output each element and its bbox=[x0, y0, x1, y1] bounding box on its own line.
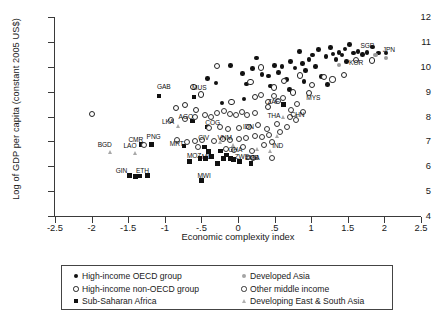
data-point bbox=[265, 104, 271, 110]
data-point bbox=[252, 133, 258, 139]
data-point bbox=[138, 174, 143, 179]
data-point bbox=[384, 56, 388, 60]
data-point bbox=[176, 124, 180, 128]
data-point bbox=[220, 101, 225, 106]
x-axis-label: Economic complexity index bbox=[55, 231, 421, 242]
point-label-civ: CIV bbox=[198, 134, 209, 141]
data-point bbox=[225, 126, 231, 132]
point-label-chn: CHN bbox=[291, 111, 305, 118]
plot-area: GABMUSAGOLKACOGIDNCMRPNGMRTCIVVNMGHABGDL… bbox=[55, 17, 421, 216]
point-label-zaf: ZAF bbox=[267, 98, 279, 105]
point-label-ind: IND bbox=[272, 142, 283, 149]
data-point bbox=[269, 155, 275, 161]
point-label-jpn: JPN bbox=[383, 46, 395, 53]
data-point bbox=[157, 94, 162, 99]
legend-item[interactable]: Other middle income bbox=[238, 283, 364, 296]
data-point bbox=[193, 107, 199, 113]
legend-item[interactable]: Developing East & South Asia bbox=[238, 295, 364, 308]
data-point bbox=[242, 97, 247, 102]
legend-marker-filled-square-icon bbox=[70, 299, 82, 303]
data-point bbox=[182, 102, 188, 108]
y-axis-label: Log of GDP per capita (constant 2005 US$… bbox=[11, 9, 21, 209]
data-point bbox=[294, 101, 300, 107]
data-point bbox=[228, 63, 233, 68]
data-point bbox=[255, 122, 261, 128]
data-point bbox=[215, 161, 220, 166]
point-label-lka: LKA bbox=[162, 118, 174, 125]
data-point bbox=[89, 111, 95, 117]
legend-marker-gray-triangle-icon bbox=[238, 299, 250, 303]
data-point bbox=[309, 82, 315, 88]
chart-legend: High-income OECD groupHigh-income non-OE… bbox=[61, 265, 393, 310]
data-point bbox=[264, 126, 270, 132]
point-label-cog: COG bbox=[205, 119, 220, 126]
data-point bbox=[321, 74, 327, 80]
data-point bbox=[297, 72, 303, 78]
data-point bbox=[307, 57, 312, 62]
data-point bbox=[187, 159, 192, 164]
data-point bbox=[255, 147, 259, 151]
data-point bbox=[328, 45, 333, 50]
legend-item[interactable]: High-income OECD group bbox=[70, 270, 199, 283]
data-point bbox=[310, 53, 315, 58]
data-point bbox=[173, 105, 179, 111]
data-point bbox=[297, 49, 302, 54]
y-tick bbox=[48, 42, 55, 43]
data-point bbox=[259, 134, 265, 140]
data-point bbox=[276, 70, 281, 75]
data-point bbox=[228, 99, 234, 105]
point-label-mwi: MWI bbox=[197, 172, 210, 179]
data-point bbox=[250, 66, 255, 71]
legend-item-label: High-income non-OECD group bbox=[82, 284, 199, 294]
point-label-mus: MUS bbox=[192, 84, 206, 91]
data-point bbox=[214, 63, 220, 69]
data-point bbox=[316, 47, 321, 52]
data-point bbox=[268, 149, 272, 153]
y-tick bbox=[48, 17, 55, 18]
point-label-mli: MLI bbox=[202, 153, 213, 160]
data-point bbox=[302, 79, 307, 84]
data-point bbox=[192, 95, 197, 100]
data-point bbox=[243, 135, 249, 141]
data-point bbox=[271, 84, 277, 90]
data-point bbox=[347, 42, 352, 47]
y-tick bbox=[48, 117, 55, 118]
y-tick bbox=[48, 166, 55, 167]
point-label-bgd: BGD bbox=[98, 141, 112, 148]
data-point bbox=[184, 139, 190, 145]
data-point bbox=[205, 76, 210, 81]
data-point bbox=[337, 63, 341, 67]
data-point bbox=[260, 72, 265, 77]
data-point bbox=[206, 125, 212, 131]
data-point bbox=[236, 136, 242, 142]
point-label-gab: GAB bbox=[157, 83, 171, 90]
y-tick bbox=[48, 191, 55, 192]
point-label-png: PNG bbox=[147, 133, 161, 140]
legend-item[interactable]: Developed Asia bbox=[238, 270, 364, 283]
legend-marker-filled-circle-icon bbox=[70, 274, 82, 278]
legend-item-label: Developing East & South Asia bbox=[250, 296, 364, 306]
data-point bbox=[293, 66, 298, 71]
data-point bbox=[303, 68, 308, 73]
data-point bbox=[236, 125, 242, 131]
data-point bbox=[244, 112, 250, 118]
data-point bbox=[329, 76, 335, 82]
data-point bbox=[272, 63, 277, 68]
legend-item[interactable]: Sub-Saharan Africa bbox=[70, 295, 199, 308]
legend-marker-hollow-circle-icon bbox=[70, 286, 82, 292]
data-point bbox=[334, 57, 339, 62]
y-tick bbox=[48, 141, 55, 142]
y-tick bbox=[48, 92, 55, 93]
legend-item[interactable]: High-income non-OECD group bbox=[70, 283, 199, 296]
legend-item-label: Other middle income bbox=[250, 284, 329, 294]
legend-column-left: High-income OECD groupHigh-income non-OE… bbox=[70, 270, 199, 308]
data-point bbox=[284, 124, 290, 130]
point-label-idn: IDN bbox=[243, 123, 254, 130]
data-point bbox=[373, 53, 377, 57]
legend-item-label: Sub-Saharan Africa bbox=[82, 296, 157, 306]
y-tick bbox=[48, 216, 55, 217]
legend-item-label: Developed Asia bbox=[250, 271, 310, 281]
point-label-vnm: VNM bbox=[217, 134, 231, 141]
data-point bbox=[281, 78, 287, 84]
data-point bbox=[252, 110, 258, 116]
